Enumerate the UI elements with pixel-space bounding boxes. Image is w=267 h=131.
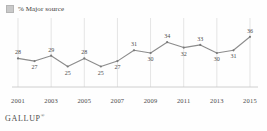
data-point-marker (199, 44, 201, 46)
data-label: 31 (230, 53, 236, 60)
brand-text: GALLUP (5, 114, 41, 123)
data-label: 31 (131, 41, 137, 48)
data-label: 25 (65, 70, 71, 77)
data-point-marker (33, 60, 35, 62)
data-label: 28 (15, 49, 21, 56)
x-tick-label: 2003 (44, 97, 58, 104)
data-label: 25 (98, 70, 104, 77)
data-point-marker (67, 65, 69, 67)
data-point-marker (232, 49, 234, 51)
data-label: 29 (48, 47, 54, 54)
plot-area: 282729252825273130343233303136 (0, 18, 267, 94)
legend-swatch-icon (6, 5, 14, 13)
trademark-symbol: ® (41, 113, 46, 118)
data-label: 32 (181, 51, 187, 58)
data-point-marker (116, 60, 118, 62)
data-point-marker (183, 47, 185, 49)
legend-label: % Major source (18, 5, 64, 14)
data-point-marker (50, 55, 52, 57)
data-label: 27 (32, 64, 38, 71)
data-point-marker (133, 49, 135, 51)
gallup-brand: GALLUP® (5, 113, 45, 123)
data-point-marker (166, 41, 168, 43)
chart-legend: % Major source (6, 4, 64, 14)
data-label: 28 (81, 49, 87, 56)
data-point-marker (249, 36, 251, 38)
data-point-marker (216, 52, 218, 54)
data-label: 33 (197, 36, 203, 43)
data-label: 36 (247, 28, 253, 35)
data-label: 30 (214, 56, 220, 63)
x-tick-label: 2013 (210, 97, 224, 104)
gallup-line-chart: % Major source 2827292528252731303432333… (0, 0, 267, 131)
data-label: 27 (114, 64, 120, 71)
data-label: 34 (164, 33, 170, 40)
data-label: 30 (148, 56, 154, 63)
x-tick-label: 2005 (77, 97, 91, 104)
x-tick-label: 2001 (11, 97, 25, 104)
data-point-marker (149, 52, 151, 54)
data-point-marker (83, 57, 85, 59)
data-point-marker (17, 57, 19, 59)
x-axis-labels: 20012003200520072009201120132015 (0, 95, 267, 109)
x-tick-label: 2007 (111, 97, 125, 104)
x-tick-label: 2011 (177, 97, 191, 104)
chart-canvas (0, 18, 267, 94)
data-point-marker (100, 65, 102, 67)
x-tick-label: 2015 (243, 97, 257, 104)
x-tick-label: 2009 (144, 97, 158, 104)
